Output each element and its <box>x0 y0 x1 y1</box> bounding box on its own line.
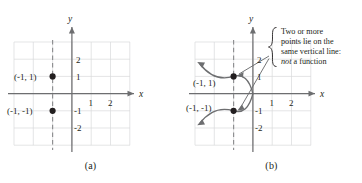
y-axis-label-a: y <box>67 14 73 24</box>
x-axis-arrow-b <box>309 91 316 97</box>
y-tick-neg1-a: -1 <box>74 106 82 116</box>
leader-arrow-lower <box>237 104 244 110</box>
point-label-upper-b: (-1, 1) <box>193 78 216 88</box>
point-label-lower-a: (-1, -1) <box>7 106 33 116</box>
panel-a: x y 2 1 -1 -2 1 2 (-1, 1) (-1, -1) (a) <box>0 0 181 183</box>
panel-b-caption: (b) <box>181 160 362 171</box>
panel-b: x y 2 1 -1 -2 1 2 (-1, 1) (-1, -1) Two o… <box>181 0 362 183</box>
annotation-not-italic: not <box>281 57 291 66</box>
annotation-line-3: same vertical line: <box>281 47 361 57</box>
annotation-line-2: points lie on the <box>281 37 361 47</box>
panel-a-plot: x y 2 1 -1 -2 1 2 (-1, 1) (-1, -1) <box>0 0 181 183</box>
vertical-line-test-figure: x y 2 1 -1 -2 1 2 (-1, 1) (-1, -1) (a) <box>0 0 362 183</box>
x-tick-1-b: 1 <box>270 98 275 108</box>
y-tick-2-a: 2 <box>76 55 81 65</box>
annotation-text: Two or more points lie on the same verti… <box>281 27 361 67</box>
annotation-line-1: Two or more <box>281 27 361 37</box>
x-tick-2-b: 2 <box>289 98 294 108</box>
data-point-marker <box>50 108 56 114</box>
y-tick-2-b: 2 <box>257 55 262 65</box>
y-axis-label-b: y <box>248 14 254 24</box>
axes-a <box>8 27 134 152</box>
parabola-arrow-upper <box>197 62 205 68</box>
parabola-arrow-lower <box>197 119 205 125</box>
annotation-line-4: not a function <box>281 57 361 67</box>
data-point-marker <box>231 108 237 114</box>
point-label-upper-a: (-1, 1) <box>14 72 37 82</box>
y-tick-neg2-a: -2 <box>74 123 82 133</box>
x-tick-2-a: 2 <box>108 98 113 108</box>
x-axis-label-a: x <box>138 89 144 99</box>
y-tick-1-b: 1 <box>257 72 262 82</box>
y-axis-arrow-b <box>250 27 256 34</box>
y-tick-neg2-b: -2 <box>255 123 263 133</box>
x-tick-1-a: 1 <box>89 98 94 108</box>
x-axis-arrow-a <box>128 91 135 97</box>
data-point-marker <box>231 73 237 79</box>
annotation-line-4-rest: a function <box>291 57 326 66</box>
panel-a-caption: (a) <box>0 160 181 171</box>
y-tick-neg1-b: -1 <box>255 106 263 116</box>
x-axis-label-b: x <box>319 89 325 99</box>
point-label-lower-b: (-1, -1) <box>186 103 212 113</box>
y-axis-arrow-a <box>69 27 75 34</box>
annotation-leader-lines <box>239 56 269 109</box>
y-tick-1-a: 1 <box>76 72 81 82</box>
data-point-marker <box>50 73 56 79</box>
